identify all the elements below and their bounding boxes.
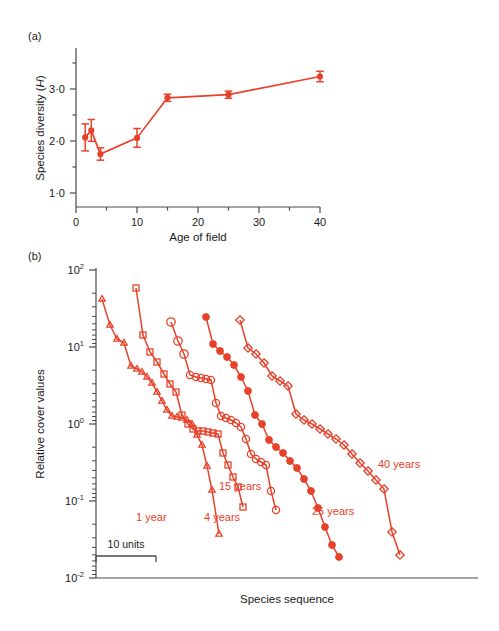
scientific-figure: (a) 1·0 2·0 3·0 0 10 — [0, 0, 499, 631]
data-point — [88, 127, 94, 133]
data-point — [273, 444, 280, 451]
markers-4-years — [133, 285, 246, 510]
panel-a-ytick-2: 2·0 — [49, 135, 65, 147]
data-point — [217, 348, 224, 355]
panel-a-x-ticks — [76, 207, 320, 213]
data-point — [238, 374, 245, 381]
label-40-years: 40 years — [378, 458, 421, 470]
panel-a-ylabel-close: ) — [34, 75, 46, 79]
series-1-year — [99, 296, 222, 537]
scale-bar-label: 10 units — [108, 538, 145, 550]
scale-bar: 10 units — [96, 538, 156, 562]
data-point — [329, 542, 336, 549]
data-point — [322, 524, 329, 531]
panel-b-ytick-0p01: 10-2 — [65, 570, 84, 584]
panel-a-ylabel-main: Species diversity ( — [34, 87, 46, 180]
data-point — [252, 412, 259, 419]
panel-a-tag: (a) — [28, 30, 41, 42]
panel-b: (b) — [28, 250, 478, 605]
data-point — [203, 314, 210, 321]
series-25-years — [203, 314, 343, 561]
data-point — [336, 554, 343, 561]
label-4-years: 4 years — [204, 511, 241, 523]
data-point — [266, 437, 273, 444]
panel-a-y-ticks — [70, 63, 76, 193]
label-1-year: 1 year — [136, 511, 167, 523]
data-point — [225, 92, 231, 98]
panel-b-ytick-1: 100 — [68, 416, 84, 430]
markers-25-years — [203, 314, 343, 561]
panel-a-x-axis-label: Age of field — [169, 231, 227, 243]
panel-a-xtick-20: 20 — [192, 216, 204, 228]
panel-b-y-axis-label: Relative cover values — [34, 369, 46, 479]
svg-text:Species diversity (H): Species diversity (H) — [34, 75, 46, 181]
panel-a: (a) 1·0 2·0 3·0 0 10 — [28, 30, 326, 243]
data-point — [231, 362, 238, 369]
svg-text:Relative cover values: Relative cover values — [34, 369, 46, 479]
markers-1-year — [99, 296, 222, 537]
panel-a-ytick-1: 1·0 — [49, 187, 65, 199]
data-point — [308, 488, 315, 495]
series-40-years — [236, 316, 404, 559]
panel-b-x-axis-label: Species sequence — [240, 593, 334, 605]
label-25-years: 25 years — [312, 505, 355, 517]
panel-a-ytick-3: 3·0 — [49, 83, 65, 95]
data-point — [294, 465, 301, 472]
markers-40-years — [236, 316, 404, 559]
data-point — [287, 458, 294, 465]
panel-b-ytick-0p1: 10-1 — [65, 493, 84, 507]
figure-container: (a) 1·0 2·0 3·0 0 10 — [0, 0, 499, 631]
panel-a-data-line — [85, 77, 320, 155]
data-point — [280, 450, 287, 457]
panel-a-xtick-30: 30 — [253, 216, 265, 228]
data-point — [82, 134, 88, 140]
data-point — [245, 388, 252, 395]
data-point — [317, 73, 323, 79]
panel-b-ytick-100: 102 — [68, 262, 84, 276]
data-point — [134, 135, 140, 141]
data-point — [301, 476, 308, 483]
panel-b-ytick-10: 101 — [68, 339, 84, 353]
series-4-years — [133, 285, 246, 510]
panel-a-xtick-10: 10 — [131, 216, 143, 228]
panel-a-data-markers — [82, 73, 323, 157]
data-point — [164, 95, 170, 101]
panel-b-tag: (b) — [28, 250, 41, 262]
panel-a-xtick-0: 0 — [73, 216, 79, 228]
data-point — [224, 354, 231, 361]
label-15-years: 15 years — [219, 480, 262, 492]
data-point — [259, 421, 266, 428]
data-point — [210, 341, 217, 348]
panel-a-xtick-40: 40 — [314, 216, 326, 228]
panel-a-y-axis-label: Species diversity (H) — [34, 75, 46, 181]
data-point — [97, 151, 103, 157]
